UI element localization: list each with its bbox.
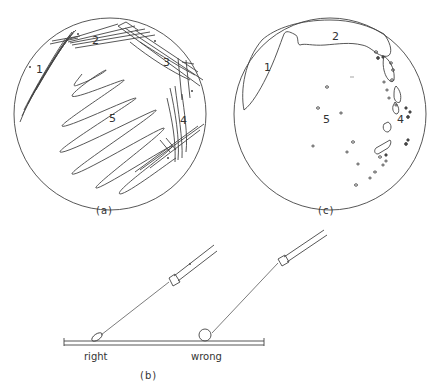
panel-a-caption: (a) <box>96 205 113 216</box>
plate-a-zone-4-label: 4 <box>180 114 187 127</box>
plate-a-zone-2-label: 2 <box>92 34 99 47</box>
growth-zone-4 <box>383 122 391 132</box>
panel-b <box>64 230 327 346</box>
agar-surface <box>64 338 264 346</box>
plate-c-zone-5-label: 5 <box>323 113 330 126</box>
plate-c-zone-2-label: 2 <box>332 30 339 43</box>
panel-c-caption: (c) <box>318 205 334 216</box>
loop-wrong <box>199 230 327 341</box>
streak-zone-3 <box>118 26 203 100</box>
plate-a-zone-5-label: 5 <box>109 112 116 125</box>
streak-zone-1 <box>20 30 80 122</box>
loop-right <box>90 245 217 343</box>
streak-zone-4 <box>135 86 204 172</box>
loop-right-label: right <box>84 351 108 362</box>
figure-canvas: 1 2 3 4 5 1 2 4 5 <box>0 0 438 386</box>
growth-zone-4b <box>375 140 391 154</box>
plate-a-zone-3-label: 3 <box>163 56 170 69</box>
plate-c-zone-1-label: 1 <box>264 61 271 74</box>
plate-a-zone-1-label: 1 <box>36 63 43 76</box>
growth-zone-3b <box>394 86 401 103</box>
loop-wrong-label: wrong <box>191 351 222 362</box>
plate-c-zone-4-label: 4 <box>397 113 404 126</box>
panel-b-caption: (b) <box>140 370 157 381</box>
streak-zone-5 <box>60 70 176 194</box>
streak-zone-2 <box>66 22 155 48</box>
